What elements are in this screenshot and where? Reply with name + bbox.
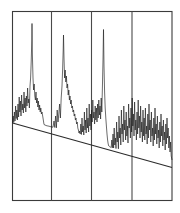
trace-group [13,24,173,161]
chromatogram-figure [0,0,180,213]
chart-canvas [0,0,180,213]
plot-frame [13,12,173,201]
plot-frame-group [13,12,173,201]
signal-trace [13,24,173,161]
